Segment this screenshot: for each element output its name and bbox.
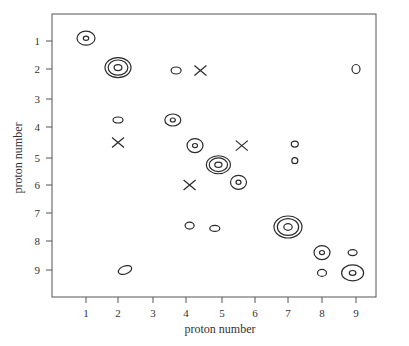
contour-peak — [105, 58, 131, 78]
contour-peak — [318, 269, 327, 276]
contour-peak — [352, 65, 360, 74]
contour-peak — [77, 31, 95, 45]
contour-peak — [113, 117, 123, 123]
x-tick-label: 6 — [252, 307, 258, 319]
contour-peak — [206, 156, 230, 174]
y-tick-label: 6 — [35, 179, 41, 191]
contour-peak — [117, 264, 133, 276]
y-tick-label: 5 — [35, 152, 41, 164]
x-tick-label: 3 — [150, 307, 156, 319]
x-tick-label: 7 — [285, 307, 291, 319]
y-tick-label: 3 — [35, 93, 41, 105]
x-tick-label: 4 — [183, 307, 189, 319]
y-axis-label: proton number — [11, 123, 25, 194]
y-tick-label: 1 — [35, 35, 41, 47]
contour-peak — [185, 222, 194, 229]
x-axis: 123456789 — [83, 297, 359, 319]
y-tick-label: 9 — [35, 264, 41, 276]
cross-marker — [194, 66, 206, 76]
contour-peaks — [77, 31, 364, 281]
contour-peak — [274, 216, 302, 238]
x-tick-label: 9 — [353, 307, 359, 319]
contour-peak — [171, 67, 181, 74]
contour-peak — [314, 246, 330, 260]
x-tick-label: 8 — [319, 307, 325, 319]
contour-peak — [348, 250, 357, 256]
contour-peak — [187, 139, 203, 153]
x-tick-label: 1 — [83, 307, 89, 319]
contour-peak — [342, 265, 364, 281]
contour-peak — [165, 114, 181, 126]
contour-peak — [292, 158, 298, 164]
y-axis: 123456789 — [35, 35, 53, 276]
y-tick-label: 2 — [35, 63, 41, 75]
cross-marker — [184, 180, 196, 190]
x-tick-label: 5 — [219, 307, 225, 319]
x-axis-label: proton number — [185, 322, 256, 336]
y-tick-label: 7 — [35, 207, 41, 219]
y-tick-label: 8 — [35, 235, 41, 247]
plot-frame — [52, 14, 376, 297]
contour-peak — [291, 141, 298, 147]
x-tick-label: 2 — [115, 307, 121, 319]
contour-peak — [210, 225, 220, 231]
y-tick-label: 4 — [35, 121, 41, 133]
contour-peak — [231, 175, 247, 189]
cross-marker — [236, 141, 248, 151]
contour-chart: 123456789 123456789 proton number proton… — [0, 0, 409, 346]
cross-marker — [112, 138, 124, 148]
